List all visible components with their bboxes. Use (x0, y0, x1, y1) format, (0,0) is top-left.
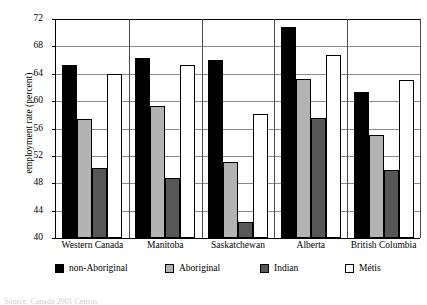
bar-chart: employment rate (percent) 72686460565248… (0, 0, 427, 305)
bar-non-aboriginal-saskatchewan[interactable] (208, 60, 223, 238)
bar-group-bars (129, 19, 202, 238)
group-separator (129, 19, 130, 238)
y-tick-mark-40 (52, 238, 56, 239)
legend-label: Indian (274, 263, 298, 273)
plot-area: 726864605652484440Western CanadaManitoba… (55, 19, 420, 239)
bar-indian-western-canada[interactable] (92, 168, 107, 238)
bar-group: Saskatchewan (202, 19, 275, 238)
y-tick-label-56: 56 (19, 124, 43, 134)
bar-m-tis-western-canada[interactable] (107, 74, 122, 238)
bar-m-tis-british-columbia[interactable] (399, 80, 414, 238)
bar-aboriginal-western-canada[interactable] (77, 119, 92, 238)
group-separator (347, 19, 348, 238)
group-separator (202, 19, 203, 238)
bar-non-aboriginal-british-columbia[interactable] (354, 92, 369, 238)
bar-indian-alberta[interactable] (311, 118, 326, 238)
bar-m-tis-manitoba[interactable] (180, 65, 195, 238)
bar-m-tis-alberta[interactable] (326, 55, 341, 238)
bar-aboriginal-british-columbia[interactable] (369, 135, 384, 238)
x-axis-label-saskatchewan: Saskatchewan (202, 240, 275, 250)
bar-indian-saskatchewan[interactable] (238, 222, 253, 238)
y-tick-label-60: 60 (19, 96, 43, 106)
bar-group: Manitoba (129, 19, 202, 238)
legend-swatch-icon (55, 264, 64, 273)
source-note: Source: Canada 2001 Census (4, 297, 98, 305)
legend-item-indian[interactable]: Indian (260, 263, 298, 273)
bar-aboriginal-manitoba[interactable] (150, 106, 165, 238)
bar-aboriginal-saskatchewan[interactable] (223, 162, 238, 238)
bar-group-bars (202, 19, 275, 238)
x-axis-label-british-columbia: British Columbia (347, 240, 420, 250)
legend-swatch-icon (165, 264, 174, 273)
y-tick-label-40: 40 (19, 233, 43, 243)
legend-item-m-tis[interactable]: Métis (345, 263, 381, 273)
bar-aboriginal-alberta[interactable] (296, 79, 311, 238)
y-tick-label-64: 64 (19, 69, 43, 79)
y-tick-label-68: 68 (19, 41, 43, 51)
bar-indian-manitoba[interactable] (165, 178, 180, 238)
bar-group: Western Canada (56, 19, 129, 238)
group-separator (420, 19, 421, 238)
x-axis-label-manitoba: Manitoba (129, 240, 202, 250)
bar-non-aboriginal-manitoba[interactable] (135, 58, 150, 238)
bar-group-bars (347, 19, 420, 238)
legend-swatch-icon (345, 264, 354, 273)
y-tick-label-48: 48 (19, 178, 43, 188)
legend-swatch-icon (260, 264, 269, 273)
bar-m-tis-saskatchewan[interactable] (253, 114, 268, 238)
legend-item-non-aboriginal[interactable]: non-Aboriginal (55, 263, 128, 273)
bar-non-aboriginal-alberta[interactable] (281, 27, 296, 238)
bar-group: Alberta (274, 19, 347, 238)
y-tick-label-72: 72 (19, 14, 43, 24)
legend-label: Métis (359, 263, 381, 273)
group-separator (274, 19, 275, 238)
bar-non-aboriginal-western-canada[interactable] (62, 65, 77, 238)
legend-item-aboriginal[interactable]: Aboriginal (165, 263, 220, 273)
bar-group-bars (56, 19, 129, 238)
legend-label: Aboriginal (179, 263, 220, 273)
x-axis-label-western-canada: Western Canada (56, 240, 129, 250)
y-tick-label-44: 44 (19, 206, 43, 216)
bar-group-bars (274, 19, 347, 238)
legend-label: non-Aboriginal (69, 263, 128, 273)
y-tick-label-52: 52 (19, 151, 43, 161)
bar-group: British Columbia (347, 19, 420, 238)
bar-indian-british-columbia[interactable] (384, 170, 399, 238)
x-axis-label-alberta: Alberta (274, 240, 347, 250)
